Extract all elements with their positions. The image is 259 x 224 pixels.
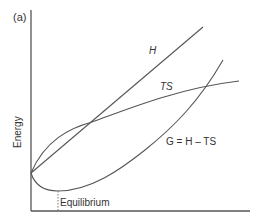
h-label: H bbox=[149, 45, 157, 56]
panel-label: (a) bbox=[13, 11, 26, 23]
ts-label: TS bbox=[160, 81, 173, 92]
h-curve bbox=[31, 27, 203, 173]
g-curve bbox=[31, 60, 223, 191]
ts-curve bbox=[31, 81, 239, 173]
equilibrium-label: Equilibrium bbox=[60, 197, 109, 208]
g-label: G = H – TS bbox=[166, 136, 216, 147]
energy-diagram: (a) Energy H TS G = H – TS Equilibrium bbox=[0, 0, 259, 224]
y-axis-label: Energy bbox=[12, 116, 23, 148]
